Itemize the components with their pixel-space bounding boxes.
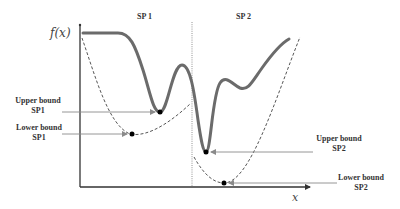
x-axis-label: x [292,191,299,204]
upper-bound-sp2-point [204,150,209,155]
lower-bound-sp2-point [222,181,227,186]
lower-bound-sp2-label-line1: Lower bound [338,173,384,182]
region-label-sp1: SP 1 [137,12,152,21]
lower-bound-sp1-label-line1: Lower bound [16,123,62,132]
branch-and-bound-diagram: f(x) x SP 1 SP 2 Upper bound SP1 Lower b… [0,0,400,209]
relaxation-curve-sp2 [194,37,300,183]
upper-bound-sp1-label-line2: SP1 [31,106,44,115]
lower-bound-sp1-point [130,132,135,137]
y-axis-tip [79,24,81,26]
lower-bound-sp2-label-line2: SP2 [354,183,367,192]
y-axis-label: f(x) [49,26,71,40]
lower-bound-sp1-label-line2: SP1 [32,133,45,142]
upper-bound-sp1-point [158,110,163,115]
upper-bound-sp2-label-line1: Upper bound [316,134,362,143]
upper-bound-sp2-label-line2: SP2 [332,144,345,153]
region-label-sp2: SP 2 [236,12,251,21]
upper-bound-sp1-label-line1: Upper bound [15,96,61,105]
